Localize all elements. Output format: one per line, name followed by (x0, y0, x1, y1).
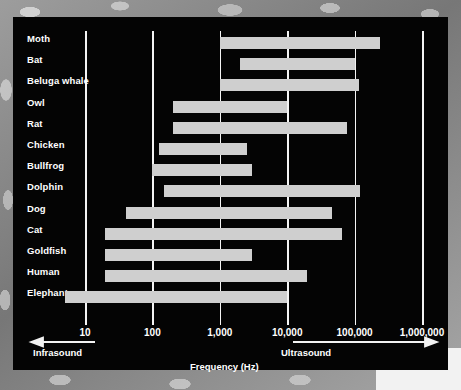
screenshot-root: Infrasound Ultrasound Frequency (Hz) 101… (0, 0, 461, 390)
chart-panel: Infrasound Ultrasound Frequency (Hz) 101… (13, 17, 448, 370)
range-bar (65, 291, 287, 303)
ultrasound-label: Ultrasound (281, 347, 331, 358)
x-tick-label: 100,000 (337, 327, 373, 338)
category-label: Cat (27, 224, 43, 235)
category-label: Dolphin (27, 181, 63, 192)
range-bar (152, 164, 252, 176)
gridline-1000000 (422, 31, 424, 325)
category-label: Elephant (27, 287, 68, 298)
range-bar (105, 270, 307, 282)
category-label: Goldfish (27, 245, 66, 256)
category-label: Rat (27, 118, 43, 129)
ultrasound-arrow-head (425, 338, 437, 347)
range-bar (173, 122, 347, 134)
category-label: Bullfrog (27, 160, 64, 171)
category-label: Owl (27, 97, 45, 108)
range-bar (220, 37, 380, 49)
range-bar (105, 228, 341, 240)
range-bar (159, 143, 247, 155)
plot-area: Infrasound Ultrasound Frequency (Hz) 101… (13, 17, 448, 370)
x-tick-label: 10,000 (272, 327, 303, 338)
category-label: Human (27, 266, 60, 277)
category-label: Chicken (27, 139, 65, 150)
x-tick-label: 10 (79, 327, 90, 338)
range-bar (105, 249, 252, 261)
x-axis-title: Frequency (Hz) (190, 361, 259, 372)
x-tick-label: 1,000,000 (400, 327, 445, 338)
range-bar (126, 207, 332, 219)
range-bar (220, 79, 359, 91)
gridline-100000 (355, 31, 357, 325)
infrasound-arrow-head (31, 338, 43, 347)
x-tick-label: 100 (144, 327, 161, 338)
category-label: Moth (27, 33, 50, 44)
range-bar (240, 58, 355, 70)
range-bar (164, 185, 360, 197)
category-label: Beluga whale (27, 75, 89, 86)
infrasound-label: Infrasound (33, 347, 82, 358)
x-tick-label: 1,000 (207, 327, 232, 338)
range-bar (173, 101, 288, 113)
category-label: Dog (27, 203, 46, 214)
category-label: Bat (27, 54, 43, 65)
